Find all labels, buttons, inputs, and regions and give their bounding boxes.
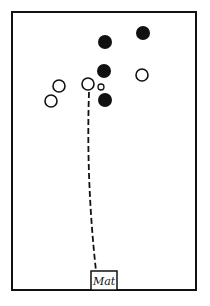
open-player-marker bbox=[53, 80, 65, 92]
filled-player-marker bbox=[98, 93, 112, 107]
open-player-marker bbox=[82, 78, 94, 90]
open-player-marker bbox=[45, 95, 57, 107]
court-boundary bbox=[12, 12, 196, 290]
filled-player-marker bbox=[97, 64, 111, 78]
ball-marker bbox=[98, 84, 104, 90]
movement-path-dashed bbox=[88, 92, 96, 271]
mat: Mat bbox=[91, 271, 117, 290]
mat-label: Mat bbox=[92, 275, 116, 288]
open-players-group bbox=[45, 69, 148, 107]
filled-player-marker bbox=[136, 26, 150, 40]
filled-player-marker bbox=[98, 35, 112, 49]
open-player-marker bbox=[136, 69, 148, 81]
filled-players-group bbox=[97, 26, 150, 107]
diagram-canvas: Mat bbox=[0, 0, 210, 306]
